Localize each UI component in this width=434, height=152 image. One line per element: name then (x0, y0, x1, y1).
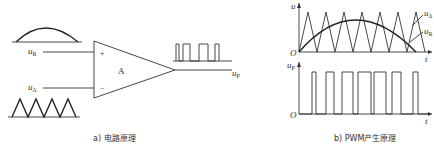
bottom-origin-label: O (290, 110, 297, 120)
op-amp-icon (94, 41, 175, 98)
input-minus-label: uΔ (28, 82, 37, 93)
origin-label: O (290, 48, 297, 58)
sine-reference-curve (299, 20, 416, 52)
input-plus-label: uR (28, 46, 37, 57)
bottom-axis-t-label: t (425, 116, 428, 126)
caption-a: a) 电路原理 (93, 133, 136, 143)
axis-u-label: u (291, 1, 296, 11)
amplifier-label: A (118, 66, 125, 76)
legend-sine: uR (424, 26, 433, 37)
plus-sign: + (100, 49, 105, 58)
triangle-carrier-curve (299, 12, 425, 52)
axis-t-label: t (425, 54, 428, 64)
sine-wave-icon (16, 28, 78, 42)
pwm-diagram: + − A uR uΔ uP a) 电路原理 u O t uΔ uR (0, 0, 434, 152)
output-label: uP (232, 68, 241, 79)
minus-sign: − (100, 84, 105, 93)
panel-b-waveforms: u O t uΔ uR uP O t b) PWM产生原理 (287, 1, 433, 143)
pwm-pulse-train (299, 72, 430, 114)
caption-b: b) PWM产生原理 (334, 133, 396, 143)
pulse-train-icon (176, 44, 219, 61)
triangle-wave-icon (12, 99, 76, 117)
axis-up-label: uP (287, 60, 296, 71)
legend-triangle: uΔ (424, 8, 433, 19)
panel-a-circuit: + − A uR uΔ uP a) 电路原理 (8, 28, 241, 143)
